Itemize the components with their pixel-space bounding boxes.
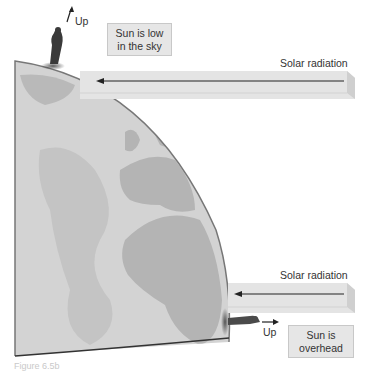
- solar-radiation-label-top: Solar radiation: [280, 57, 348, 69]
- sun-overhead-line2: overhead: [289, 342, 353, 355]
- sun-low-line2: in the sky: [108, 40, 171, 53]
- up-label-bottom: Up: [263, 326, 276, 338]
- sun-overhead-line1: Sun is: [289, 329, 353, 342]
- lower-solar-beam: [228, 283, 355, 313]
- earth-sun-angle-diagram: Up Up Sun is low in the sky Sun is overh…: [0, 0, 372, 375]
- up-arrow-bottom-icon: [262, 319, 279, 325]
- solar-radiation-label-bottom: Solar radiation: [280, 269, 348, 281]
- sun-low-label-box: Sun is low in the sky: [107, 23, 172, 56]
- up-arrow-top-icon: [67, 6, 74, 22]
- figure-caption: Figure 6.5b: [14, 361, 60, 371]
- sun-low-line1: Sun is low: [108, 27, 171, 40]
- person-top-icon: [41, 27, 65, 70]
- up-label-top: Up: [75, 15, 88, 27]
- sun-overhead-label-box: Sun is overhead: [288, 325, 354, 358]
- upper-solar-beam: [80, 71, 355, 99]
